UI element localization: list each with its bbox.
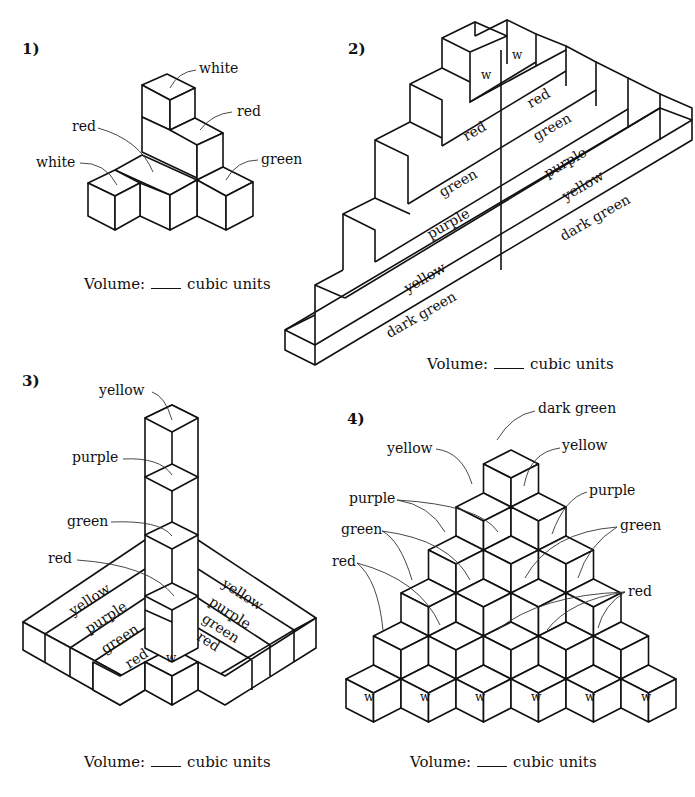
p4-label-purple-left: purple bbox=[349, 490, 395, 506]
problem-4-figure bbox=[0, 0, 695, 797]
p4-label-red-left: red bbox=[332, 553, 356, 569]
p4-label-purple-right: purple bbox=[589, 482, 635, 498]
p4-answer-blank[interactable] bbox=[477, 765, 507, 767]
p4-volume: Volume:cubic units bbox=[410, 753, 597, 771]
p4-w-5: w bbox=[585, 690, 595, 704]
p4-w-1: w bbox=[364, 690, 374, 704]
p4-w-6: w bbox=[641, 690, 651, 704]
p4-label-dark-green: dark green bbox=[538, 400, 616, 416]
p4-label-green-left: green bbox=[341, 521, 382, 537]
p4-label-green-right: green bbox=[620, 517, 661, 533]
p4-label-red-right: red bbox=[628, 583, 652, 599]
p4-w-3: w bbox=[475, 690, 485, 704]
p4-w-2: w bbox=[420, 690, 430, 704]
p4-label-yellow-right: yellow bbox=[562, 437, 608, 453]
p4-label-yellow-left: yellow bbox=[387, 440, 433, 456]
p4-w-4: w bbox=[531, 690, 541, 704]
